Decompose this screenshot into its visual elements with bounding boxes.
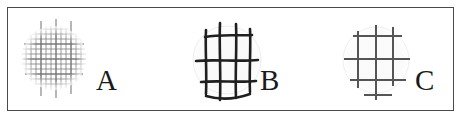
mesh-b-svg	[186, 14, 268, 106]
figure-border-frame: A	[7, 7, 454, 111]
figure-root: A	[0, 0, 469, 121]
panel-label-b: B	[260, 66, 279, 95]
mesh-a-circle-fade	[22, 26, 86, 90]
mesh-b-container	[186, 14, 268, 106]
panel-b: B	[148, 8, 303, 112]
panel-a: A	[8, 8, 148, 112]
mesh-c-container	[336, 14, 416, 106]
mesh-a-svg	[20, 14, 88, 102]
mesh-a-container	[20, 14, 88, 102]
panel-label-c: C	[415, 66, 434, 95]
mesh-c-svg	[336, 14, 416, 106]
panel-label-a: A	[96, 66, 117, 95]
panel-c: C	[303, 8, 455, 112]
